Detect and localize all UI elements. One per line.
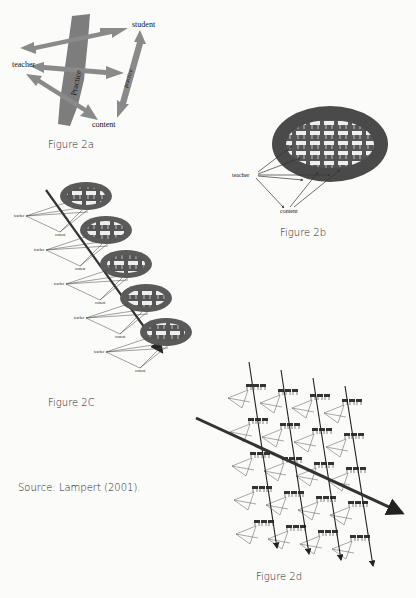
relation-lines (260, 395, 282, 413)
figure-2c: teachercontentteachercontentteacherconte… (14, 182, 192, 373)
teacher-label-2b: teacher (232, 172, 249, 178)
relation-line (86, 314, 148, 318)
desk (252, 486, 258, 489)
desk (350, 535, 356, 538)
classroom-episode: teachercontent (94, 318, 192, 373)
page-canvas: Practice practice teacher student conten… (0, 0, 416, 598)
desk (358, 433, 364, 436)
relation-lines (262, 429, 284, 447)
content-label: content (95, 301, 105, 305)
desk (325, 530, 331, 533)
relation-line (46, 246, 108, 250)
desk (285, 389, 291, 392)
relation-line (26, 212, 88, 216)
relation-lines (232, 458, 254, 476)
caption-2c: Figure 2C (48, 397, 95, 408)
classroom-motif (294, 428, 332, 452)
desk (355, 501, 361, 504)
desk (291, 491, 297, 494)
desk (260, 384, 266, 387)
desk (253, 384, 259, 387)
desk (298, 491, 304, 494)
desk (326, 428, 332, 431)
desk (246, 384, 252, 387)
caption-2a: Figure 2a (48, 139, 94, 150)
classroom-motif (324, 399, 362, 423)
desk (248, 418, 254, 421)
vertical-arrow (345, 386, 373, 566)
teacher-label-2a: teacher (12, 60, 35, 69)
relation-lines (294, 434, 316, 452)
source-citation: Source: Lampert (2001). (18, 482, 140, 493)
relation-lines (332, 541, 354, 559)
desk (292, 389, 298, 392)
desk (266, 486, 272, 489)
desk (318, 530, 324, 533)
desk (286, 525, 292, 528)
figure-2b: teacher content Figure 2b (232, 106, 388, 238)
student-label-2a: student (132, 20, 156, 29)
desk-grid (87, 221, 125, 239)
teacher-label: teacher (34, 248, 45, 252)
caption-2b: Figure 2b (280, 227, 326, 238)
desk-grid (67, 187, 105, 205)
relation-line (66, 280, 128, 284)
desk (254, 520, 260, 523)
desk (280, 423, 286, 426)
relation-lines (292, 400, 314, 418)
figure-2d (196, 362, 402, 566)
relation-line (26, 208, 80, 216)
desk (294, 423, 300, 426)
figure-2a: Practice practice teacher student conten… (12, 14, 156, 150)
desk (261, 520, 267, 523)
relation-line (106, 348, 168, 352)
classroom-motif (292, 394, 330, 418)
desk-grid (147, 323, 185, 341)
relation-line (86, 318, 120, 334)
desk (344, 433, 350, 436)
desk (284, 491, 290, 494)
teacher-label: teacher (54, 282, 65, 286)
teacher-label: teacher (94, 350, 105, 354)
content-label: content (55, 233, 65, 237)
classroom-motif (330, 501, 368, 525)
relation-lines (268, 531, 290, 549)
diagonal-arrow (196, 418, 402, 513)
desk (323, 496, 329, 499)
classroom-motif (326, 433, 364, 457)
classroom-motif (236, 520, 274, 544)
desk (259, 486, 265, 489)
desk (296, 457, 302, 460)
relation-lines (324, 405, 346, 423)
caption-2d: Figure 2d (256, 571, 302, 582)
desk (312, 428, 318, 431)
desk (293, 525, 299, 528)
desk (319, 428, 325, 431)
desk (316, 496, 322, 499)
desk-grid (107, 255, 145, 273)
desk (349, 399, 355, 402)
desk (317, 394, 323, 397)
content-label-2b: content (280, 208, 298, 214)
content-label: content (75, 267, 85, 271)
desk (328, 462, 334, 465)
desk (356, 399, 362, 402)
classroom-motif (262, 423, 300, 447)
desk (314, 462, 320, 465)
teacher-label: teacher (74, 316, 85, 320)
classroom-motif (260, 389, 298, 413)
relation-lines (300, 536, 322, 554)
relation-line (26, 216, 60, 232)
desk (357, 535, 363, 538)
classroom-motif (230, 418, 268, 442)
relation-lines (326, 439, 348, 457)
desk (262, 418, 268, 421)
relation-line (140, 344, 170, 368)
relation-lines (234, 492, 256, 510)
desk (360, 467, 366, 470)
classroom-motif (234, 486, 272, 510)
content-label: content (115, 335, 125, 339)
desk (278, 389, 284, 392)
desk (348, 501, 354, 504)
relation-lines (236, 526, 258, 544)
